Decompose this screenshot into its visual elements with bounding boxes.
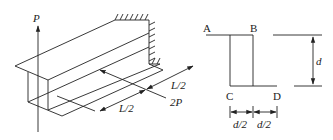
label-span-1: L/2 <box>118 102 134 114</box>
beam-3d-view <box>15 14 193 132</box>
label-point-c: C <box>226 90 233 102</box>
diagram-canvas: P 2P L/2 L/2 A B C D d d/2 d/2 <box>0 0 333 140</box>
span-dim-line-2 <box>147 66 193 89</box>
top-flange <box>15 20 149 80</box>
label-width-half-left: d/2 <box>233 118 248 130</box>
fixed-support-icon <box>115 14 160 64</box>
label-span-2: L/2 <box>170 79 186 91</box>
label-point-b: B <box>250 22 257 34</box>
label-point-a: A <box>203 22 211 34</box>
cross-section <box>206 35 322 118</box>
label-width-half-right: d/2 <box>257 118 272 130</box>
label-height-d: d <box>316 55 322 67</box>
label-load-p: P <box>32 12 40 24</box>
label-load-2p: 2P <box>170 96 183 108</box>
label-point-d: D <box>273 90 281 102</box>
